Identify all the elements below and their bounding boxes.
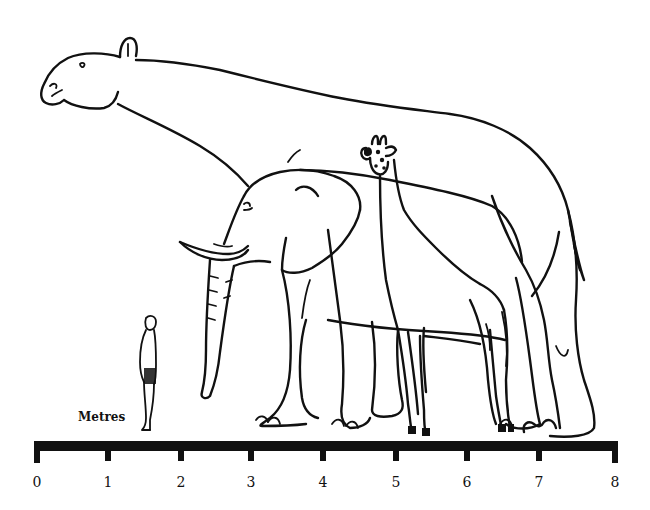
scale-unit-label: Metres (78, 410, 125, 424)
human-drawing (140, 316, 156, 430)
scale-tick-label: 6 (457, 474, 477, 490)
animal-line-drawing (0, 0, 650, 510)
scale-tick-label: 3 (241, 474, 261, 490)
scale-tick-label: 8 (605, 474, 625, 490)
giraffe-drawing (361, 136, 514, 436)
scale-tick-label: 7 (529, 474, 549, 490)
size-comparison-figure: Metres 0 1 2 3 4 5 6 7 8 (0, 0, 650, 510)
elephant-drawing (180, 170, 540, 429)
scale-tick-label: 4 (313, 474, 333, 490)
paraceratherium-drawing (41, 38, 594, 437)
scale-tick-label: 2 (171, 474, 191, 490)
scale-bar (34, 441, 618, 463)
scale-tick-label: 0 (27, 474, 47, 490)
scale-tick-label: 5 (386, 474, 406, 490)
scale-tick-label: 1 (98, 474, 118, 490)
